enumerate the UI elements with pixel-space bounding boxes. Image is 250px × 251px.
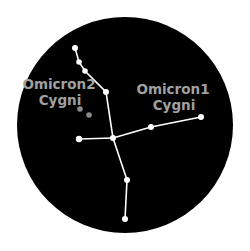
omicron2-label-line2: Cygni [39,92,82,108]
left-arm-line [79,138,113,139]
star [148,124,154,130]
star [124,177,130,183]
star [76,136,82,142]
star [122,216,128,222]
star [76,59,82,65]
star [103,89,109,95]
star [110,135,116,141]
star [198,114,204,120]
omicron1-label-line1: Omicron1 [136,81,209,97]
sky-disc [17,17,233,233]
faint-star [86,112,92,118]
omicron1-label-line2: Cygni [153,97,196,113]
star [72,45,78,51]
star [82,68,88,74]
omicron2-label-line1: Omicron2 [22,76,95,92]
constellation-diagram: Omicron2 Cygni Omicron1 Cygni [0,0,250,251]
